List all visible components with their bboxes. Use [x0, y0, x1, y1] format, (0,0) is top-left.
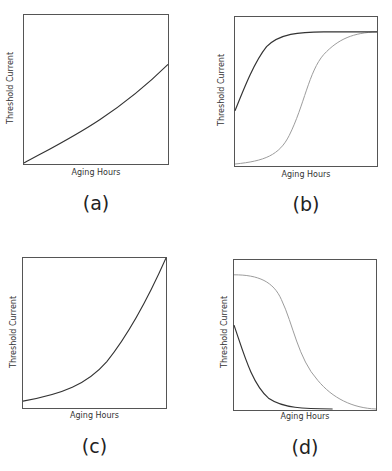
curve-b-dark	[235, 32, 377, 111]
y-axis-label-b: Threshold Current	[217, 54, 226, 126]
y-axis-label-c: Threshold Current	[9, 296, 18, 368]
curve-b-light	[235, 32, 377, 164]
panel-caption-c: (c)	[22, 435, 167, 457]
x-axis-label-a: Aging Hours	[23, 168, 169, 177]
plot-area-d	[233, 259, 377, 411]
panel-caption-d: (d)	[233, 436, 377, 458]
x-axis-label-b: Aging Hours	[234, 170, 378, 179]
chart-d-svg	[234, 260, 376, 410]
chart-a-svg	[24, 15, 168, 164]
x-axis-label-c: Aging Hours	[22, 411, 167, 420]
chart-b-svg	[235, 17, 377, 166]
plot-area-b	[234, 16, 378, 167]
panel-caption-a: (a)	[23, 192, 169, 214]
plot-area-c	[22, 257, 167, 409]
y-axis-label-d: Threshold Current	[220, 296, 229, 368]
curve-d-dark	[234, 325, 333, 409]
chart-c-svg	[23, 258, 166, 408]
curve-c	[23, 258, 166, 401]
panel-caption-b: (b)	[234, 193, 378, 215]
plot-area-a	[23, 14, 169, 165]
curve-d-light	[234, 275, 376, 409]
curve-a	[24, 64, 168, 163]
y-axis-label-a: Threshold Current	[6, 52, 15, 124]
x-axis-label-d: Aging Hours	[233, 412, 377, 421]
